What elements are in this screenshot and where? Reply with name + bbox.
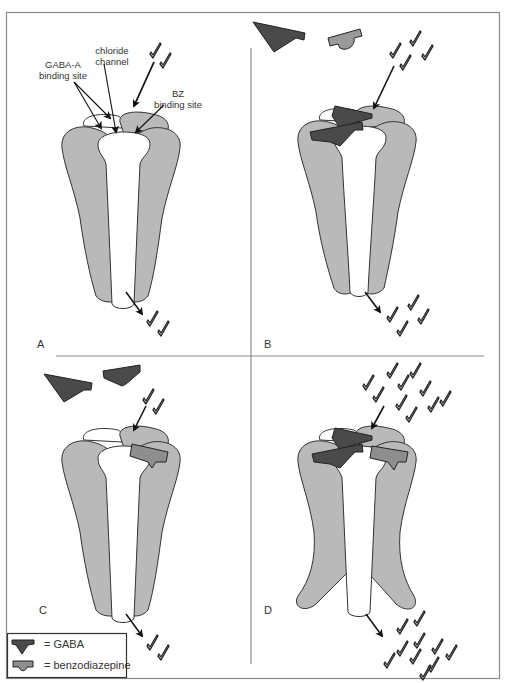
bz-site-label: BZbinding site: [154, 88, 202, 110]
chloride-ion: [150, 43, 161, 58]
ion-flow-arrow-out: [365, 292, 380, 312]
chloride-ion: [396, 395, 407, 410]
chloride-ion: [373, 387, 384, 402]
chloride-ion: [153, 399, 164, 414]
chloride-ion: [147, 311, 158, 326]
chloride-ion: [432, 639, 443, 654]
panel-letter-d: D: [264, 604, 272, 616]
chloride-ion: [410, 649, 421, 664]
chloride-ion: [387, 363, 398, 378]
panel-b: B: [253, 22, 433, 350]
chloride-channel-label: chloridechannel: [95, 45, 128, 67]
chloride-ion: [408, 295, 419, 310]
chloride-ion: [446, 645, 457, 660]
ion-flow-arrow-in: [374, 66, 394, 108]
panel-letter-c: C: [39, 604, 47, 616]
chloride-ion: [440, 391, 451, 406]
chloride-ion: [384, 653, 395, 668]
gaba-site-label: GABA-Abinding site: [39, 59, 87, 81]
ion-flow-arrow-out: [366, 614, 382, 636]
chloride-ion: [398, 375, 409, 390]
chloride-ion: [428, 397, 439, 412]
chloride-ion: [410, 363, 421, 378]
chloride-ion: [397, 321, 408, 336]
legend: = GABA = benzodiazepine: [8, 634, 131, 678]
chloride-ion: [390, 43, 401, 58]
legend-gaba-label: = GABA: [44, 638, 85, 650]
chloride-ion: [397, 641, 408, 656]
chloride-ion: [420, 381, 431, 396]
chloride-ion: [414, 633, 425, 648]
benzodiazepine-molecule: [328, 29, 362, 49]
gaba-molecule: [103, 365, 140, 386]
ion-flow-arrow-in: [372, 406, 384, 428]
panel-a: GABA-Abinding site chloridechannel BZbin…: [37, 43, 202, 350]
panel-c: C: [39, 365, 180, 660]
chloride-ion: [143, 389, 154, 404]
panel-d: D: [264, 363, 457, 680]
chloride-ion: [400, 55, 411, 70]
figure-frame: [7, 13, 500, 679]
chloride-ion: [397, 619, 408, 634]
gaba-molecule: [44, 374, 92, 402]
legend-benzodiazepine-label: = benzodiazepine: [44, 659, 131, 671]
chloride-ion: [363, 375, 374, 390]
chloride-ion: [422, 45, 433, 60]
chloride-ion: [158, 645, 169, 660]
chloride-ion: [414, 611, 425, 626]
chloride-ion: [160, 53, 171, 68]
panel-letter-b: B: [264, 338, 271, 350]
chloride-ion: [420, 665, 431, 680]
chloride-ion: [410, 31, 421, 46]
gaba-receptor-figure: GABA-Abinding site chloridechannel BZbin…: [0, 0, 505, 683]
chloride-ion: [158, 321, 169, 336]
chloride-ion: [418, 309, 429, 324]
panel-letter-a: A: [37, 338, 45, 350]
ion-flow-arrow-in: [134, 62, 154, 106]
chloride-ion: [147, 635, 158, 650]
chloride-ion: [406, 407, 417, 422]
chloride-ion: [387, 307, 398, 322]
gaba-molecule: [253, 22, 305, 52]
